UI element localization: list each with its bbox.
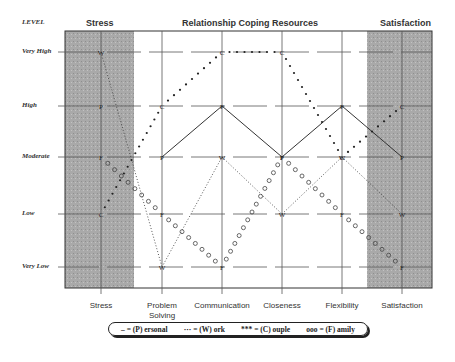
svg-text:C: C: [340, 154, 345, 162]
svg-text:C: C: [280, 49, 285, 57]
svg-text:P: P: [160, 154, 164, 162]
svg-text:F: F: [340, 211, 344, 219]
svg-text:W: W: [399, 211, 406, 219]
y-label-moderate: Moderate: [22, 152, 50, 160]
satisfaction-header: Satisfaction: [380, 18, 431, 28]
resources-header: Relationship Coping Resources: [182, 18, 318, 28]
x-label-satisfaction: Satisfaction: [367, 301, 437, 311]
svg-text:F: F: [280, 154, 284, 162]
legend-work: ··· = (W) ork: [184, 325, 225, 334]
svg-text:F: F: [220, 264, 224, 272]
svg-text:F: F: [160, 211, 164, 219]
svg-text:C: C: [160, 103, 165, 111]
svg-text:P: P: [99, 103, 103, 111]
legend-personal: – = (P) ersonal: [121, 325, 168, 334]
svg-text:P: P: [220, 103, 224, 111]
stress-header: Stress: [86, 18, 114, 28]
svg-text:P: P: [340, 103, 344, 111]
legend-couple: *** = (C) ouple: [241, 325, 290, 334]
x-label-stress: Stress: [66, 301, 136, 311]
svg-text:W: W: [279, 211, 286, 219]
y-label-low: Low: [22, 209, 34, 217]
svg-text:F: F: [99, 154, 103, 162]
svg-text:C: C: [220, 49, 225, 57]
svg-text:F: F: [400, 264, 404, 272]
svg-text:C: C: [99, 211, 104, 219]
y-label-very-low: Very Low: [22, 262, 49, 270]
legend-family: ooo = (F) amily: [306, 325, 355, 334]
legend: – = (P) ersonal ··· = (W) ork *** = (C) …: [108, 322, 368, 336]
svg-text:P: P: [400, 154, 404, 162]
y-label-high: High: [22, 101, 37, 109]
level-header: LEVEL: [22, 18, 45, 26]
svg-text:C: C: [400, 103, 405, 111]
svg-text:W: W: [159, 264, 166, 272]
y-label-very-high: Very High: [22, 47, 51, 55]
svg-text:W: W: [219, 154, 226, 162]
svg-text:W: W: [98, 49, 105, 57]
